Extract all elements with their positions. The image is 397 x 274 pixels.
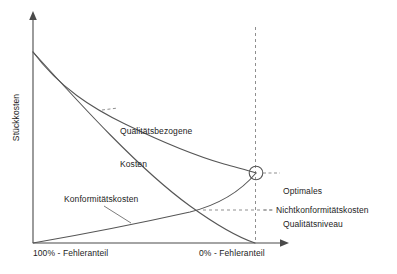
annotation-optimal-quality-level-line2: Qualitätsniveau	[283, 219, 343, 230]
annotation-quality-related-costs-line1: Qualitätsbezogene	[120, 126, 192, 137]
quality-costs-leader-line	[102, 108, 118, 110]
y-axis-arrowhead	[29, 11, 37, 20]
annotation-quality-related-costs: Qualitätsbezogene Kosten	[120, 104, 192, 192]
annotation-conformity-costs: Konformitätskosten	[64, 194, 138, 205]
quality-cost-chart: Stückkosten 100% - Fehleranteil 0% - Feh…	[0, 0, 397, 274]
reference-lines-group	[203, 27, 272, 243]
annotation-optimal-quality-level-line1: Optimales	[283, 186, 343, 197]
x-axis-label-right: 0% - Fehleranteil	[199, 248, 265, 259]
annotation-quality-related-costs-line2: Kosten	[120, 159, 192, 170]
conformity-costs-leader-line	[104, 206, 131, 223]
y-axis-label: Stückkosten	[11, 78, 22, 158]
x-axis-label-left: 100% - Fehleranteil	[33, 248, 108, 259]
annotation-nonconformity-costs: Nichtkonformitätskosten	[276, 205, 369, 216]
